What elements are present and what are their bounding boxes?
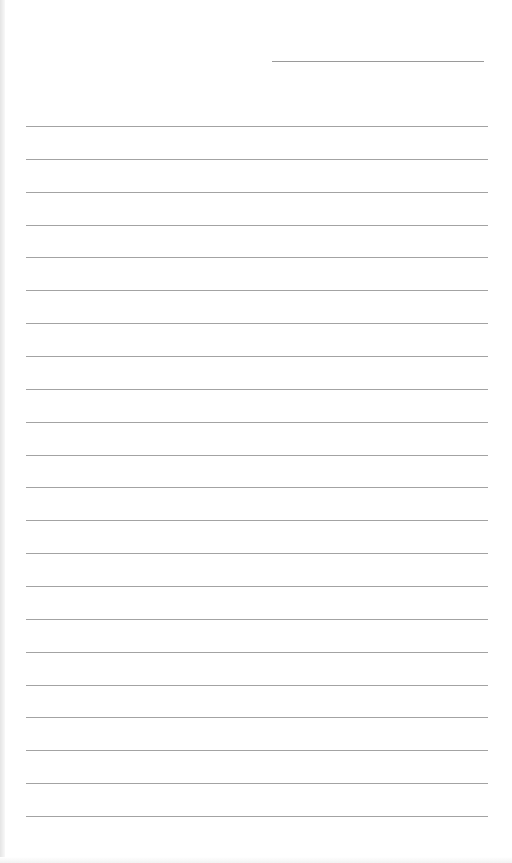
ruled-line [26, 783, 488, 784]
ruled-line [26, 356, 488, 357]
ruled-line [26, 586, 488, 587]
ruled-line [26, 126, 488, 127]
ruled-line [26, 619, 488, 620]
ruled-line [26, 455, 488, 456]
page-edge-shadow [0, 0, 5, 863]
ruled-line [26, 816, 488, 817]
ruled-line [26, 750, 488, 751]
ruled-line [26, 389, 488, 390]
ruled-line [26, 685, 488, 686]
ruled-line [26, 717, 488, 718]
ruled-line [26, 553, 488, 554]
ruled-line [26, 487, 488, 488]
page-bottom-shadow [0, 857, 512, 863]
ruled-line [26, 257, 488, 258]
ruled-line [26, 159, 488, 160]
ruled-line [26, 520, 488, 521]
ruled-line [26, 192, 488, 193]
ruled-line [26, 290, 488, 291]
ruled-line [26, 323, 488, 324]
ruled-line [26, 422, 488, 423]
ruled-line [26, 652, 488, 653]
ruled-line [26, 225, 488, 226]
header-rule [272, 61, 484, 62]
